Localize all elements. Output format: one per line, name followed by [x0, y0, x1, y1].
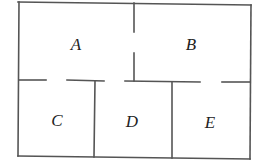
wall-c-d: [94, 81, 95, 157]
floor-plan-walls: [0, 0, 257, 168]
room-label-a: A: [71, 36, 81, 53]
room-label-b: B: [186, 36, 196, 53]
floor-plan-diagram: A B C D E: [0, 0, 257, 168]
wall-a-c-right: [67, 80, 104, 81]
room-label-e: E: [205, 114, 215, 131]
room-label-d: D: [126, 113, 138, 130]
room-label-c: C: [51, 112, 62, 129]
outer-wall-left: [18, 2, 19, 156]
wall-d-top: [125, 81, 200, 82]
outer-wall-bottom: [18, 156, 250, 159]
